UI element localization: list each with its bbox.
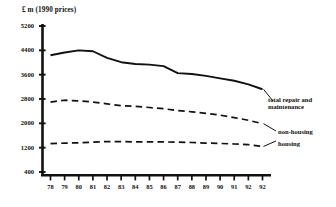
series-line-non-housing — [51, 100, 263, 123]
y-tick-label: 4400 — [8, 46, 34, 53]
series-line-total-repair-and-maintenance — [51, 50, 263, 89]
y-tick-label: 3600 — [8, 71, 34, 78]
leader-line — [264, 124, 277, 131]
axis-lines — [41, 24, 271, 175]
series-label-housing: housing — [278, 140, 300, 147]
y-tick-label: 5200 — [8, 22, 34, 29]
chart-figure: £ m (1990 prices) 4001200200028003600440… — [0, 0, 336, 207]
x-tick-label: 92 — [255, 183, 271, 190]
series-label-non-housing: non-housing — [278, 128, 313, 135]
y-tick-label: 2000 — [8, 119, 34, 126]
series-label-total-repair-and-maintenance: total repair and maintenance — [268, 96, 312, 111]
y-tick-label: 2800 — [8, 95, 34, 102]
data-series-layer — [51, 50, 263, 146]
y-tick-label: 1200 — [8, 144, 34, 151]
series-line-housing — [51, 142, 263, 147]
leader-line — [264, 141, 277, 146]
y-tick-label: 400 — [8, 168, 34, 175]
